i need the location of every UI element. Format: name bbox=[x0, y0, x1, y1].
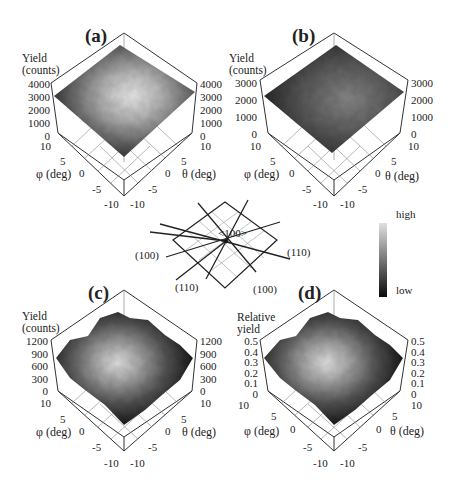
phi-tick: -10 bbox=[313, 458, 328, 469]
phi-tick: -10 bbox=[104, 199, 119, 210]
phi-tick: 5 bbox=[271, 411, 277, 422]
z-ticks-right-d: 0.5 0.4 0.3 0.2 0.1 0 bbox=[411, 336, 425, 400]
phi-tick: -10 bbox=[104, 458, 119, 469]
phi-tick: 0 bbox=[289, 168, 295, 179]
phi-tick: 10 bbox=[40, 141, 51, 152]
figure-graphics bbox=[0, 0, 454, 485]
z-axis-title-line1: Yield bbox=[229, 52, 267, 64]
panel-c-plot bbox=[51, 290, 197, 451]
theta-tick: -5 bbox=[148, 442, 157, 453]
theta-tick: 5 bbox=[181, 156, 187, 167]
theta-tick: -5 bbox=[358, 442, 367, 453]
colorbar bbox=[379, 223, 387, 297]
z-axis-title-line2: (counts) bbox=[22, 322, 60, 334]
theta-tick: -5 bbox=[148, 184, 157, 195]
theta-tick: -10 bbox=[340, 199, 355, 210]
theta-tick: 10 bbox=[200, 141, 211, 152]
theta-axis-label: θ (deg) bbox=[390, 424, 424, 439]
colorbar-high-label: high bbox=[396, 208, 416, 220]
z-ticks-left-c: 1200 900 600 300 0 bbox=[20, 336, 48, 399]
phi-tick: 10 bbox=[250, 141, 261, 152]
tick: 0 bbox=[232, 389, 258, 400]
theta-tick: -5 bbox=[358, 184, 367, 195]
colorbar-low-label: low bbox=[396, 284, 413, 296]
phi-axis-label: φ (deg) bbox=[36, 167, 71, 182]
theta-tick: 5 bbox=[391, 156, 397, 167]
phi-tick: 0 bbox=[79, 426, 85, 437]
theta-tick: 0 bbox=[375, 168, 381, 179]
z-axis-title-line1: Relative bbox=[237, 311, 275, 323]
tick: 3000 bbox=[229, 78, 257, 95]
tick: 2000 bbox=[229, 95, 257, 112]
z-ticks-left-a: 4000 3000 2000 1000 0 bbox=[22, 79, 50, 144]
z-axis-title-line2: (counts) bbox=[229, 64, 267, 76]
diagram-label-plane-100-bottom: (100) bbox=[253, 283, 277, 295]
theta-tick: -10 bbox=[130, 199, 145, 210]
tick: 1000 bbox=[229, 112, 257, 129]
diagram-label-plane-100-left: (100) bbox=[135, 249, 159, 261]
z-axis-title-b: Yield (counts) bbox=[229, 52, 267, 76]
z-axis-title-line1: Yield bbox=[22, 310, 60, 322]
z-ticks-right-c: 1200 900 600 300 0 bbox=[200, 336, 222, 399]
theta-tick: -10 bbox=[340, 458, 355, 469]
phi-tick: 0 bbox=[290, 424, 296, 435]
tick: 1000 bbox=[411, 112, 433, 129]
phi-axis-label: φ (deg) bbox=[244, 424, 279, 439]
theta-axis-label: θ (deg) bbox=[182, 425, 216, 440]
z-ticks-left-b: 3000 2000 1000 0 bbox=[229, 78, 257, 146]
theta-tick: 0 bbox=[165, 168, 171, 179]
theta-tick: 0 bbox=[376, 424, 382, 435]
panel-label-b: (b) bbox=[292, 25, 315, 47]
tick: 0.5 bbox=[411, 336, 425, 347]
panel-d-plot bbox=[260, 290, 408, 451]
panel-label-d: (d) bbox=[298, 282, 321, 304]
phi-tick: 10 bbox=[238, 400, 249, 411]
tick: 600 bbox=[200, 361, 222, 374]
tick: 1200 bbox=[20, 336, 48, 349]
theta-axis-label: θ (deg) bbox=[182, 167, 216, 182]
panel-label-c: (c) bbox=[88, 282, 109, 304]
theta-tick: 0 bbox=[165, 426, 171, 437]
phi-tick: -5 bbox=[302, 184, 311, 195]
theta-tick: 5 bbox=[392, 411, 398, 422]
theta-tick: 10 bbox=[200, 398, 211, 409]
tick: 600 bbox=[20, 361, 48, 374]
tick: 3000 bbox=[411, 78, 433, 95]
phi-tick: -5 bbox=[92, 184, 101, 195]
phi-tick: -10 bbox=[313, 199, 328, 210]
z-ticks-right-a: 4000 3000 2000 1000 0 bbox=[200, 79, 222, 144]
tick: 1200 bbox=[200, 336, 222, 349]
z-axis-title-line2: yield bbox=[237, 323, 275, 335]
phi-tick: -5 bbox=[303, 442, 312, 453]
z-axis-title-line1: Yield bbox=[22, 52, 60, 64]
z-ticks-left-d: 0.5 0.4 0.3 0.2 0.1 0 bbox=[232, 336, 258, 400]
theta-tick: 10 bbox=[411, 400, 422, 411]
phi-tick: 5 bbox=[270, 156, 276, 167]
z-axis-title-a: Yield (counts) bbox=[22, 52, 60, 76]
phi-tick: -5 bbox=[92, 442, 101, 453]
orientation-diagram bbox=[150, 200, 290, 288]
theta-tick: 10 bbox=[408, 141, 419, 152]
diagram-label-plane-110-bottom: (110) bbox=[175, 281, 198, 293]
theta-tick: -10 bbox=[130, 458, 145, 469]
panel-a-plot bbox=[51, 33, 197, 196]
tick: 0.5 bbox=[232, 336, 258, 347]
phi-tick: 10 bbox=[40, 398, 51, 409]
z-ticks-right-b: 3000 2000 1000 0 bbox=[411, 78, 433, 146]
theta-axis-label: θ (deg) bbox=[385, 169, 419, 184]
tick: 0 bbox=[411, 389, 425, 400]
tick: 2000 bbox=[411, 95, 433, 112]
phi-tick: 5 bbox=[60, 414, 66, 425]
z-axis-title-d: Relative yield bbox=[237, 311, 275, 335]
phi-tick: 0 bbox=[79, 168, 85, 179]
diagram-label-axis-100: <100> bbox=[218, 227, 247, 239]
diagram-label-plane-110-right: (110) bbox=[287, 246, 310, 258]
theta-tick: 5 bbox=[181, 414, 187, 425]
phi-axis-label: φ (deg) bbox=[36, 425, 71, 440]
z-axis-title-line2: (counts) bbox=[22, 64, 60, 76]
panel-label-a: (a) bbox=[85, 25, 107, 47]
phi-axis-label: φ (deg) bbox=[244, 167, 279, 182]
z-axis-title-c: Yield (counts) bbox=[22, 310, 60, 334]
phi-tick: 5 bbox=[60, 156, 66, 167]
